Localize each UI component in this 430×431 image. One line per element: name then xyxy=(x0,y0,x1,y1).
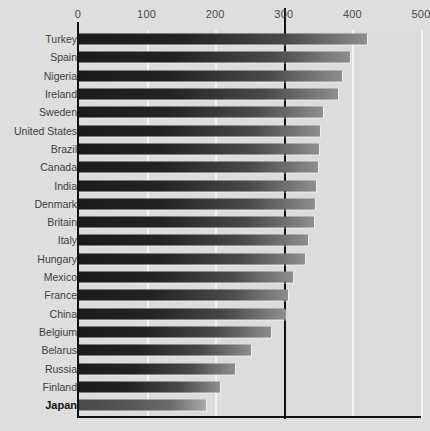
bar-mexico xyxy=(79,272,293,283)
bar-hungary xyxy=(79,253,305,264)
bar-italy xyxy=(79,235,308,246)
bar-row: Sweden xyxy=(0,103,429,121)
bar-row: Nigeria xyxy=(0,67,429,85)
category-label-denmark: Denmark xyxy=(34,198,77,210)
category-label-nigeria: Nigeria xyxy=(44,70,77,82)
bar-india xyxy=(79,180,316,191)
bar-canada xyxy=(79,162,318,173)
bar-sweden xyxy=(79,107,323,118)
bar-row: Hungary xyxy=(0,250,429,268)
bar-brazil xyxy=(79,143,319,154)
bar-russia xyxy=(79,363,235,374)
bar-row: Turkey xyxy=(0,30,429,48)
x-tick-label-400: 400 xyxy=(343,8,362,20)
x-tick-label-0: 0 xyxy=(75,8,81,20)
bar-row: Finland xyxy=(0,378,429,396)
bar-row: France xyxy=(0,286,429,304)
bar-nigeria xyxy=(79,70,342,81)
bar-france xyxy=(79,290,288,301)
bar-row: Britain xyxy=(0,213,429,231)
category-label-brazil: Brazil xyxy=(51,143,77,155)
category-label-mexico: Mexico xyxy=(44,271,77,283)
bar-row: Japan xyxy=(0,396,429,414)
category-label-belarus: Belarus xyxy=(41,344,77,356)
bar-row: Spain xyxy=(0,48,429,66)
x-tick-label-200: 200 xyxy=(206,8,225,20)
bar-row: Belarus xyxy=(0,341,429,359)
x-tick-label-500: 500 xyxy=(412,8,430,20)
category-label-spain: Spain xyxy=(50,51,77,63)
category-label-canada: Canada xyxy=(40,161,77,173)
bar-spain xyxy=(79,52,350,63)
category-label-turkey: Turkey xyxy=(45,33,77,45)
category-label-hungary: Hungary xyxy=(37,253,77,265)
category-label-belgium: Belgium xyxy=(39,326,77,338)
bar-belarus xyxy=(79,345,251,356)
category-label-finland: Finland xyxy=(43,381,77,393)
x-tick-label-300: 300 xyxy=(274,8,293,20)
bar-row: Denmark xyxy=(0,195,429,213)
x-axis-line xyxy=(77,416,421,418)
bar-row: United States xyxy=(0,122,429,140)
bar-row: China xyxy=(0,305,429,323)
bar-row: Mexico xyxy=(0,268,429,286)
bar-row: Belgium xyxy=(0,323,429,341)
category-label-japan: Japan xyxy=(45,399,77,411)
category-label-britain: Britain xyxy=(47,216,77,228)
category-label-united-states: United States xyxy=(14,125,77,137)
bar-turkey xyxy=(79,34,367,45)
bar-united-states xyxy=(79,125,320,136)
bar-japan xyxy=(79,400,206,411)
category-label-russia: Russia xyxy=(45,363,77,375)
bar-row: Russia xyxy=(0,359,429,377)
bar-denmark xyxy=(79,198,315,209)
bar-ireland xyxy=(79,89,338,100)
category-label-france: France xyxy=(44,289,77,301)
category-label-india: India xyxy=(54,180,77,192)
bar-finland xyxy=(79,381,220,392)
bar-row: Italy xyxy=(0,231,429,249)
bar-britain xyxy=(79,217,314,228)
bar-row: India xyxy=(0,176,429,194)
bar-row: Canada xyxy=(0,158,429,176)
bar-belgium xyxy=(79,326,271,337)
category-label-italy: Italy xyxy=(58,234,77,246)
category-label-ireland: Ireland xyxy=(45,88,77,100)
bar-row: Brazil xyxy=(0,140,429,158)
category-label-sweden: Sweden xyxy=(39,106,77,118)
x-tick-label-100: 100 xyxy=(137,8,156,20)
category-label-china: China xyxy=(50,308,77,320)
bar-china xyxy=(79,308,285,319)
bar-row: Ireland xyxy=(0,85,429,103)
